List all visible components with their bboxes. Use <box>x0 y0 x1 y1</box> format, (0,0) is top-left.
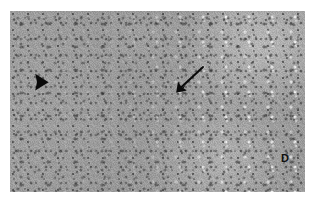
histology-micrograph-image: D <box>10 11 305 192</box>
region-label-d: D <box>281 152 289 164</box>
tissue-grain-layer <box>10 11 305 192</box>
arrowhead-icon <box>34 73 50 91</box>
figure-root: D <box>0 0 316 205</box>
arrow-icon <box>172 61 210 97</box>
